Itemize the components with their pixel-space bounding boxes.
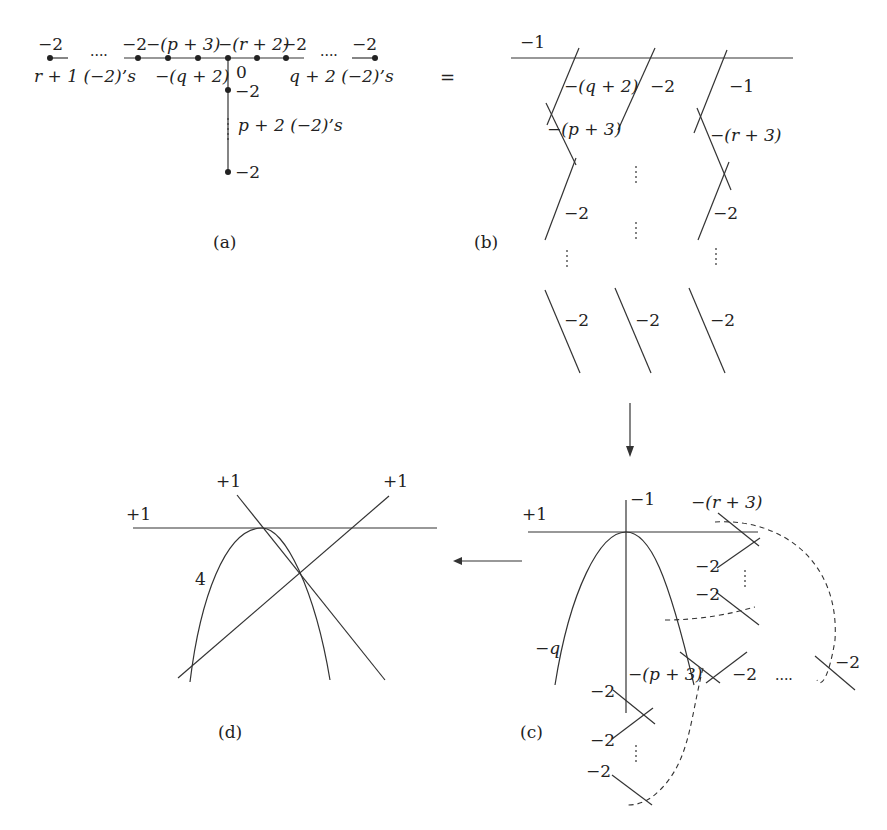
c-m2-label-b: −2 (695, 584, 720, 604)
d-plus1-mid: +1 (216, 471, 241, 491)
a-label-left-end: −2 (38, 34, 63, 54)
a-ellipsis-right: .... (320, 43, 338, 59)
a-right-count: q + 2 (−2)’s (289, 66, 394, 86)
c-p3-label: −(p + 3) (628, 664, 702, 684)
b-col3-label-0: −1 (729, 76, 754, 96)
c-minus1-label: −1 (630, 489, 655, 509)
c-caption: (c) (520, 722, 543, 742)
c-q-label: −q (535, 638, 560, 658)
c-m2-label-f: −2 (590, 730, 615, 750)
d-plus1-right: +1 (383, 471, 408, 491)
a-vert-count: p + 2 (−2)’s (238, 115, 343, 135)
a-caption: (a) (213, 232, 236, 252)
b-col1-label-1: −(p + 3) (547, 119, 621, 139)
c-m2-label-d: −2 (835, 652, 860, 672)
c-plus1-label: +1 (522, 504, 547, 524)
c-m2-label-e: −2 (590, 681, 615, 701)
b-caption: (b) (474, 232, 498, 252)
c-ellipsis: .... (775, 667, 793, 683)
d-caption: (d) (218, 722, 242, 742)
a-label-p3: −(p + 3) (146, 34, 220, 54)
a-ellipsis-left: .... (90, 43, 108, 59)
b-col2-label-0: −2 (650, 76, 675, 96)
a-label-m2: −2 (122, 34, 147, 54)
b-col2-label-1: −2 (635, 310, 660, 330)
panel-d-curves (133, 495, 437, 682)
b-col3-label-1: −(r + 3) (710, 125, 782, 145)
left-arrow (453, 557, 522, 565)
b-top-line-label: −1 (520, 32, 545, 52)
b-col1-label-3: −2 (564, 310, 589, 330)
c-m2-label-c: −2 (732, 664, 757, 684)
a-vert-top: −2 (235, 81, 260, 101)
c-m2-label-a: −2 (695, 556, 720, 576)
d-plus1-left: +1 (126, 504, 151, 524)
d-four-label: 4 (195, 569, 206, 589)
a-label-right-end: −2 (352, 34, 377, 54)
a-zero-label: 0 (236, 62, 247, 82)
a-label-r2: −(r + 2) (218, 34, 290, 54)
b-col1-label-0: −(q + 2) (564, 76, 638, 96)
a-mid-label: −(q + 2) (155, 66, 229, 86)
b-col3-label-3: −2 (710, 310, 735, 330)
a-vert-bottom: −2 (235, 162, 260, 182)
panel-c-curves (528, 500, 855, 805)
equals-sign: = (440, 67, 455, 88)
b-col1-label-2: −2 (564, 203, 589, 223)
a-left-count: r + 1 (−2)’s (34, 66, 136, 86)
a-label-m2-right: −2 (282, 34, 307, 54)
c-r3-label: −(r + 3) (691, 492, 763, 512)
down-arrow (626, 403, 634, 457)
b-col3-label-2: −2 (713, 203, 738, 223)
diagram-canvas: −2 .... −2 −(p + 3) −(r + 2) −2 .... −2 … (0, 0, 887, 830)
c-m2-label-g: −2 (586, 761, 611, 781)
